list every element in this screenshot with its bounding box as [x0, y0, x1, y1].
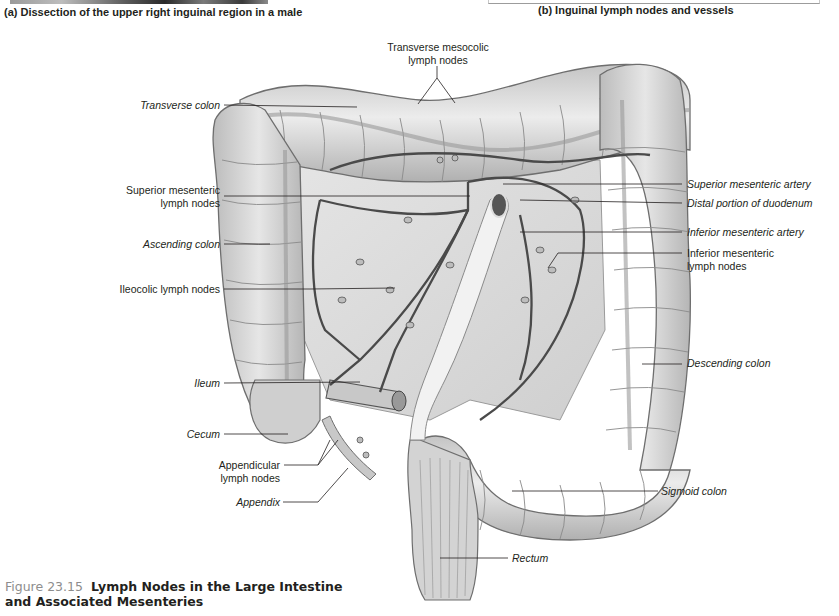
appendix-shape — [322, 416, 376, 480]
figure-number: Figure 23.15 — [5, 579, 83, 594]
label-rectum: Rectum — [512, 552, 548, 565]
label-line: lymph nodes — [160, 472, 280, 485]
label-distal-portion-of-duodenum: Distal portion of duodenum — [687, 197, 813, 210]
label-transverse-mesocolic-lymph-nodes: Transverse mesocolic lymph nodes — [376, 41, 500, 67]
label-line: lymph nodes — [687, 260, 774, 273]
label-ascending-colon: Ascending colon — [100, 238, 220, 251]
label-line: Transverse mesocolic — [376, 41, 500, 54]
label-ileum: Ileum — [100, 377, 220, 390]
figure-title-line2: and Associated Mesenteries — [5, 594, 203, 609]
figure-title-line1: Lymph Nodes in the Large Intestine — [91, 579, 342, 594]
label-line: Appendicular — [160, 459, 280, 472]
large-intestine-illustration — [0, 0, 839, 616]
label-superior-mesenteric-artery: Superior mesenteric artery — [687, 178, 811, 191]
label-line: Superior mesenteric — [100, 184, 220, 197]
label-superior-mesenteric-lymph-nodes: Superior mesenteric lymph nodes — [100, 184, 220, 210]
label-appendicular-lymph-nodes: Appendicular lymph nodes — [160, 459, 280, 485]
label-inferior-mesenteric-lymph-nodes: Inferior mesenteric lymph nodes — [687, 247, 774, 273]
label-line: Inferior mesenteric — [687, 247, 774, 260]
label-line: lymph nodes — [376, 54, 500, 67]
mesentery — [300, 160, 605, 420]
figure-caption: Figure 23.15Lymph Nodes in the Large Int… — [5, 579, 342, 609]
label-ileocolic-lymph-nodes: Ileocolic lymph nodes — [80, 283, 220, 296]
rectum-shape — [408, 440, 478, 600]
label-line: lymph nodes — [100, 197, 220, 210]
label-inferior-mesenteric-artery: Inferior mesenteric artery — [687, 226, 804, 239]
label-descending-colon: Descending colon — [687, 357, 770, 370]
label-cecum: Cecum — [100, 428, 220, 441]
label-appendix: Appendix — [160, 496, 280, 509]
label-sigmoid-colon: Sigmoid colon — [661, 485, 727, 498]
label-transverse-colon: Transverse colon — [100, 99, 220, 112]
